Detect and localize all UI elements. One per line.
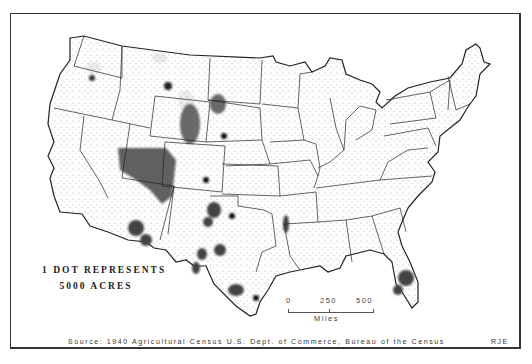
legend-line-1: 1 DOT REPRESENTS <box>42 262 150 278</box>
map-legend: 1 DOT REPRESENTS 5000 ACRES <box>42 262 150 294</box>
scale-tick-0: 0 <box>286 296 292 305</box>
scale-bar-midtick <box>329 309 330 313</box>
author-initials: RJE <box>491 338 509 345</box>
legend-line-2: 5000 ACRES <box>42 278 150 294</box>
us-map <box>0 0 532 364</box>
scale-bar: 0 250 500 Miles <box>284 296 374 324</box>
scale-tick-250: 250 <box>320 296 337 305</box>
source-credit: Source: 1940 Agricultural Census U.S. De… <box>68 338 445 345</box>
scale-unit: Miles <box>314 314 339 323</box>
scale-bar-line <box>288 309 374 313</box>
scale-tick-500: 500 <box>356 296 373 305</box>
